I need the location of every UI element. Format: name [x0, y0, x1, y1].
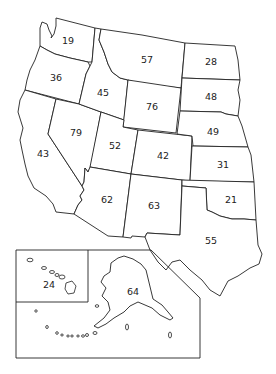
label-alaska: 64 — [127, 286, 139, 297]
label-south-dakota: 48 — [205, 91, 217, 102]
label-new-mexico: 63 — [148, 200, 160, 211]
label-california: 43 — [37, 148, 49, 159]
label-hawaii: 24 — [43, 279, 55, 290]
label-arizona: 62 — [101, 194, 113, 205]
label-wyoming: 76 — [146, 101, 158, 112]
label-oregon: 36 — [50, 72, 62, 83]
label-nebraska: 49 — [207, 126, 219, 137]
label-oklahoma: 21 — [225, 194, 237, 205]
label-utah: 52 — [109, 140, 121, 151]
label-kansas: 31 — [217, 159, 229, 170]
us-west-map: 19 36 43 45 79 57 76 52 42 62 63 28 48 4… — [0, 0, 276, 374]
label-nevada: 79 — [70, 127, 82, 138]
label-texas: 55 — [205, 235, 217, 246]
label-north-dakota: 28 — [205, 56, 217, 67]
label-montana: 57 — [141, 54, 153, 65]
label-washington: 19 — [62, 35, 74, 46]
label-colorado: 42 — [157, 150, 169, 161]
label-idaho: 45 — [97, 87, 109, 98]
